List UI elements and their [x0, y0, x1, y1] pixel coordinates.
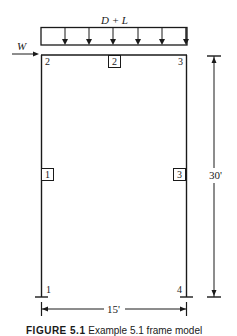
node-label-4: 4	[177, 285, 182, 295]
node-label-2: 2	[45, 57, 50, 67]
width-dimension-label: 15'	[107, 304, 120, 315]
figure-number: FIGURE 5.1	[26, 325, 85, 336]
member-label-1: 1	[41, 168, 54, 181]
figure-caption: FIGURE 5.1 Example 5.1 frame model	[26, 325, 202, 336]
member-label-3: 3	[173, 168, 186, 181]
lateral-load-arrow	[12, 52, 39, 57]
distributed-load-label: D + L	[101, 15, 128, 26]
lateral-load-label: W	[17, 41, 26, 52]
node-label-1: 1	[46, 285, 51, 295]
load-arrows	[62, 28, 189, 45]
node-label-3: 3	[178, 57, 183, 67]
frame	[41, 55, 187, 297]
member-label-2: 2	[108, 55, 121, 68]
height-dimension-label: 30'	[209, 170, 222, 181]
figure-caption-text: Example 5.1 frame model	[88, 325, 202, 336]
distributed-load	[41, 28, 189, 46]
